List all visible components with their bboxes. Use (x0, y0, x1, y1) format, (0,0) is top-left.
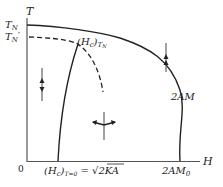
x-axis-label: H (202, 155, 213, 168)
curve-label-2am: 2AM (170, 91, 196, 102)
spin-flop-curve (58, 44, 78, 161)
two-am0-label: 2AM0 (161, 165, 191, 178)
phase-diagram-svg: T H 0 TN TN′ (Hc)TN 2AM (Hc)T=0 = √2KA 2… (0, 0, 223, 187)
hc-zero-label: (Hc)T=0 = √2KA (44, 165, 119, 178)
origin-label: 0 (18, 164, 24, 174)
tn-prime-label: TN′ (5, 30, 21, 44)
y-axis-label: T (26, 5, 35, 18)
phase-diagram: T H 0 TN TN′ (Hc)TN 2AM (Hc)T=0 = √2KA 2… (0, 0, 223, 187)
critical-point-label: (Hc)TN (77, 36, 107, 49)
canted-spins-icon (92, 112, 116, 140)
up-down-spins-icon (40, 68, 45, 101)
